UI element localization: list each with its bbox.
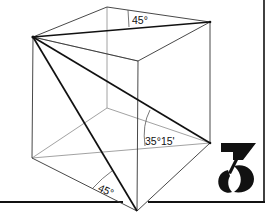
angle-label-side: 45°: [96, 181, 115, 199]
angle-label-space: 35°15': [145, 135, 175, 147]
top-face-diagonal: [33, 22, 210, 37]
angle-label-top: 45°: [132, 14, 148, 26]
cube-diagram: 45° 35°15' 45°: [0, 0, 268, 213]
angle-arcs: [93, 10, 150, 188]
diagonals: [33, 22, 210, 211]
logo-numeral-three-icon: [218, 143, 256, 193]
cube-edges: [32, 7, 210, 211]
space-diagonal: [33, 37, 210, 143]
